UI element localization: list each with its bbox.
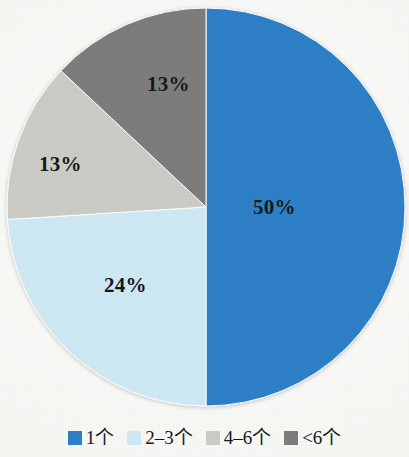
legend-item-1ge[interactable]: 1个 [68, 428, 115, 447]
legend-label-1ge: 1个 [86, 428, 115, 447]
legend-item-4to6ge[interactable]: 4–6个 [206, 428, 272, 447]
legend-label-2to3ge: 2–3个 [145, 428, 193, 447]
pie-slice-1ge[interactable] [206, 8, 405, 406]
pie-slice-2to3ge[interactable] [7, 207, 206, 406]
legend-swatch-1ge [68, 431, 82, 445]
legend-swatch-lt6ge [284, 431, 298, 445]
legend: 1个 2–3个 4–6个 <6个 [0, 418, 409, 457]
pie-label-lt6ge: 13% [147, 72, 190, 97]
pie-svg [0, 0, 409, 415]
legend-swatch-4to6ge [206, 431, 220, 445]
legend-swatch-2to3ge [127, 431, 141, 445]
legend-item-lt6ge[interactable]: <6个 [284, 428, 341, 447]
legend-item-2to3ge[interactable]: 2–3个 [127, 428, 193, 447]
legend-label-4to6ge: 4–6个 [224, 428, 272, 447]
pie-label-2to3ge: 24% [104, 273, 147, 298]
pie-label-4to6ge: 13% [39, 152, 82, 177]
pie-chart: 50% 24% 13% 13% [0, 0, 409, 415]
legend-label-lt6ge: <6个 [302, 428, 341, 447]
pie-label-1ge: 50% [253, 195, 296, 220]
